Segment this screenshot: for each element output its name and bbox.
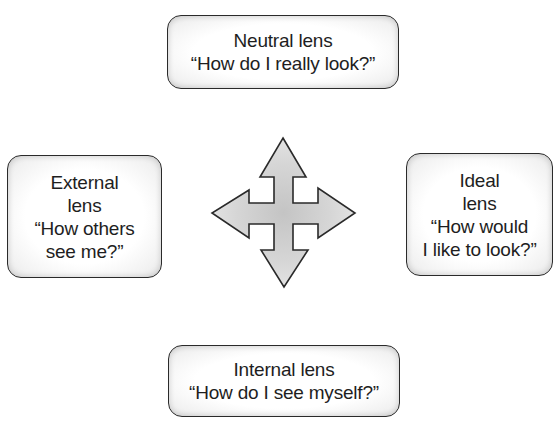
- external-lens-line4: see me?”: [46, 240, 124, 263]
- internal-lens-box: Internal lens “How do I see myself?”: [168, 345, 400, 417]
- internal-lens-question: “How do I see myself?”: [189, 381, 379, 404]
- external-lens-line1: External: [50, 171, 118, 194]
- ideal-lens-line4: I like to look?”: [422, 238, 536, 261]
- internal-lens-title: Internal lens: [234, 358, 335, 381]
- ideal-lens-box: Ideal lens “How would I like to look?”: [406, 153, 553, 276]
- ideal-lens-line3: “How would: [431, 215, 528, 238]
- external-lens-line3: “How others: [34, 217, 134, 240]
- arrow-shape: [212, 138, 355, 287]
- neutral-lens-title: Neutral lens: [234, 29, 333, 52]
- external-lens-line2: lens: [67, 194, 101, 217]
- neutral-lens-box: Neutral lens “How do I really look?”: [167, 15, 399, 89]
- external-lens-box: External lens “How others see me?”: [7, 155, 162, 278]
- ideal-lens-line1: Ideal: [459, 169, 499, 192]
- ideal-lens-line2: lens: [462, 192, 496, 215]
- neutral-lens-question: “How do I really look?”: [191, 52, 375, 75]
